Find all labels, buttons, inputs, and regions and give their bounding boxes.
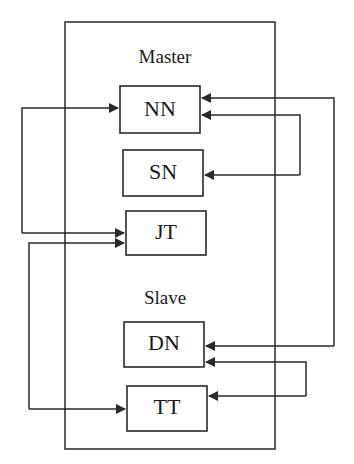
master-group-label: Master [139,46,192,67]
svg-text:NN: NN [144,96,176,121]
node-tt: TT [127,386,207,431]
svg-text:JT: JT [155,219,178,244]
node-nn: NN [120,86,200,133]
master-slave-architecture-diagram: Master Slave NN SN JT DN TT [0,0,354,464]
svg-text:DN: DN [148,330,180,355]
slave-group-label: Slave [144,287,186,308]
node-jt: JT [126,211,206,255]
edge-sn-nn-right [202,115,300,175]
edge-dn-nn-right [202,98,334,346]
node-sn: SN [123,150,203,196]
svg-text:TT: TT [154,394,181,419]
edge-tt-jt-left [29,243,124,409]
svg-text:SN: SN [149,159,177,184]
edge-jt-nn-left [22,108,118,233]
edge-tt-dn-right [206,362,306,396]
node-dn: DN [124,322,204,367]
